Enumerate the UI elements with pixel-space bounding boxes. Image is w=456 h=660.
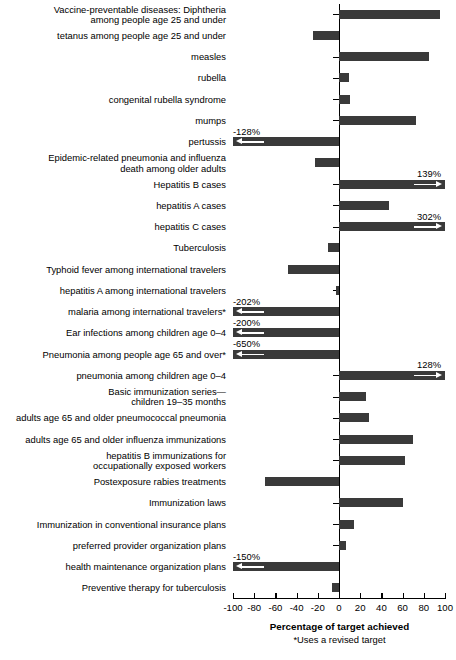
bar — [332, 583, 339, 592]
category-label: hepatitis A cases — [6, 201, 226, 211]
bar — [339, 73, 349, 82]
category-label: Typhoid fever among international travel… — [6, 265, 226, 275]
offscale-value-label: -200% — [233, 318, 260, 328]
bar — [328, 243, 339, 252]
category-label: pneumonia among children age 0–4 — [6, 371, 226, 381]
category-label: congenital rubella syndrome — [6, 95, 226, 105]
x-tick-mark — [360, 593, 361, 599]
bar — [336, 286, 339, 295]
x-tick-mark — [233, 593, 234, 599]
bar — [339, 201, 389, 210]
offscale-value-label: 302% — [417, 212, 441, 222]
x-tick-mark — [275, 593, 276, 599]
bar — [313, 31, 340, 40]
category-label: malaria among international travelers* — [6, 307, 226, 317]
x-tick-mark — [445, 593, 446, 599]
x-tick-mark — [318, 593, 319, 599]
category-label: health maintenance organization plans — [6, 562, 226, 572]
chart-footnote: *Uses a revised target — [233, 634, 446, 645]
zero-axis-line — [339, 4, 340, 598]
category-label: Pneumonia among people age 65 and over* — [6, 350, 226, 360]
bar — [233, 350, 339, 359]
category-label: Vaccine-preventable diseases: Diphtheria… — [6, 5, 226, 26]
bar — [339, 435, 413, 444]
bar — [339, 413, 369, 422]
bar — [233, 307, 339, 316]
bar — [339, 498, 403, 507]
bar — [233, 137, 339, 146]
category-label: measles — [6, 52, 226, 62]
x-tick-mark — [381, 593, 382, 599]
offscale-value-label: -128% — [233, 127, 260, 137]
bar — [315, 158, 339, 167]
offscale-value-label: -202% — [233, 297, 260, 307]
bar — [339, 456, 405, 465]
x-tick-mark — [424, 593, 425, 599]
x-tick-mark — [403, 593, 404, 599]
x-tick-mark — [339, 593, 340, 599]
bar — [339, 10, 440, 19]
category-label: Immunization in conventional insurance p… — [6, 520, 226, 530]
bar — [339, 222, 445, 231]
bar — [339, 52, 429, 61]
category-label: hepatitis B immunizations for occupation… — [6, 451, 226, 472]
category-label: Ear infections among children age 0–4 — [6, 328, 226, 338]
bar — [339, 520, 354, 529]
plot-area: -128%139%302%-202%-200%-650%128%-150% — [233, 0, 445, 600]
bar — [339, 392, 366, 401]
offscale-value-label: -150% — [233, 552, 260, 562]
bar — [288, 265, 339, 274]
category-label: hepatitis A among international traveler… — [6, 286, 226, 296]
category-label: preferred provider organization plans — [6, 541, 226, 551]
x-tick-mark — [254, 593, 255, 599]
category-label: tetanus among people age 25 and under — [6, 31, 226, 41]
offscale-value-label: 139% — [417, 169, 441, 179]
category-label: Basic immunization series— children 19–3… — [6, 387, 226, 408]
category-label: Preventive therapy for tuberculosis — [6, 583, 226, 593]
category-label: rubella — [6, 73, 226, 83]
category-label: hepatitis C cases — [6, 222, 226, 232]
category-label: adults age 65 and older influenza immuni… — [6, 435, 226, 445]
bar — [339, 180, 445, 189]
category-label: Tuberculosis — [6, 243, 226, 253]
category-label: Immunization laws — [6, 498, 226, 508]
category-label: Epidemic-related pneumonia and influenza… — [6, 153, 226, 174]
category-label: mumps — [6, 116, 226, 126]
offscale-value-label: -650% — [233, 339, 260, 349]
bar — [265, 477, 339, 486]
x-tick-label: 100 — [430, 602, 456, 613]
bar — [339, 116, 416, 125]
bar — [233, 328, 339, 337]
category-label: adults age 65 and older pneumococcal pne… — [6, 413, 226, 423]
bar — [339, 371, 445, 380]
bar — [339, 541, 346, 550]
bar — [233, 562, 339, 571]
category-label: pertussis — [6, 137, 226, 147]
x-axis-title: Percentage of target achieved — [233, 621, 446, 632]
chart-container: Vaccine-preventable diseases: Diphtheria… — [0, 0, 456, 660]
bar — [339, 95, 350, 104]
category-label: Postexposure rabies treatments — [6, 477, 226, 487]
category-label: Hepatitis B cases — [6, 180, 226, 190]
offscale-value-label: 128% — [417, 360, 441, 370]
x-tick-mark — [297, 593, 298, 599]
